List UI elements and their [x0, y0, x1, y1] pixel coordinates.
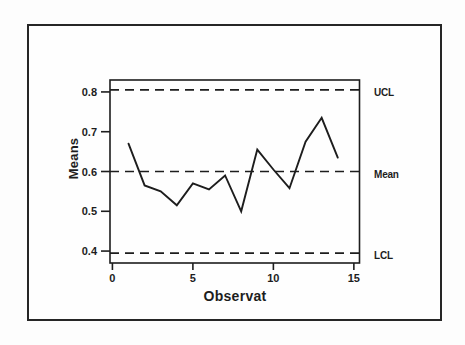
- scanned-figure: 0510150.40.50.60.70.8 Means Observat UCL…: [0, 0, 465, 345]
- ucl-label: UCL: [374, 87, 420, 99]
- x-tick-label: 5: [190, 272, 196, 284]
- x-axis-label: Observat: [110, 288, 360, 304]
- x-tick-label: 10: [267, 272, 279, 284]
- y-tick-label: 0.8: [82, 86, 97, 98]
- y-tick-label: 0.4: [82, 245, 98, 257]
- y-axis-label: Means: [66, 138, 81, 179]
- y-tick-label: 0.6: [82, 166, 97, 178]
- x-tick-label: 0: [109, 272, 115, 284]
- x-tick-label: 15: [348, 272, 360, 284]
- lcl-label: LCL: [374, 250, 420, 262]
- y-tick-label: 0.7: [82, 126, 97, 138]
- mean-label: Mean: [374, 169, 420, 181]
- y-tick-label: 0.5: [82, 205, 97, 217]
- data-line: [129, 118, 338, 211]
